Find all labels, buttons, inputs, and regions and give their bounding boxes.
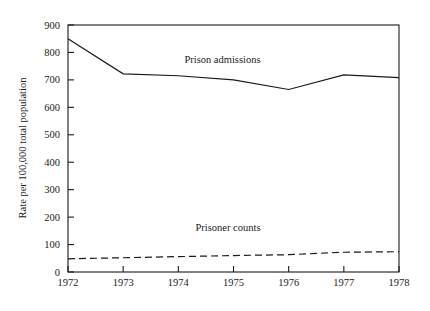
- line-chart: 0100200300400500600700800900 19721973197…: [0, 0, 430, 311]
- x-axis-ticks: 1972197319741975197619771978: [58, 266, 410, 288]
- x-tick-label: 1978: [389, 277, 410, 288]
- y-tick-label: 600: [44, 102, 60, 113]
- y-tick-label: 400: [44, 157, 60, 168]
- series-annotation-1: Prison admissions: [184, 54, 260, 65]
- x-tick-label: 1973: [113, 277, 134, 288]
- y-tick-label: 800: [44, 47, 60, 58]
- x-tick-label: 1976: [278, 277, 299, 288]
- y-axis-title: Rate per 100,000 total population: [17, 77, 28, 219]
- series-annotations: Prison admissionsPrisoner counts: [184, 54, 260, 232]
- x-tick-label: 1974: [168, 277, 190, 288]
- x-tick-label: 1977: [333, 277, 354, 288]
- y-tick-label: 100: [44, 239, 60, 250]
- x-tick-label: 1972: [58, 277, 79, 288]
- y-axis-ticks: 0100200300400500600700800900: [44, 20, 74, 278]
- y-tick-label: 900: [44, 20, 60, 31]
- chart-container: 0100200300400500600700800900 19721973197…: [0, 0, 430, 311]
- y-tick-label: 200: [44, 212, 60, 223]
- x-tick-label: 1975: [223, 277, 244, 288]
- y-tick-label: 500: [44, 129, 60, 140]
- series-annotation-2: Prisoner counts: [195, 222, 260, 233]
- y-tick-label: 300: [44, 184, 60, 195]
- y-tick-label: 700: [44, 74, 60, 85]
- y-tick-label: 0: [55, 267, 60, 278]
- series-line-2: [68, 252, 399, 259]
